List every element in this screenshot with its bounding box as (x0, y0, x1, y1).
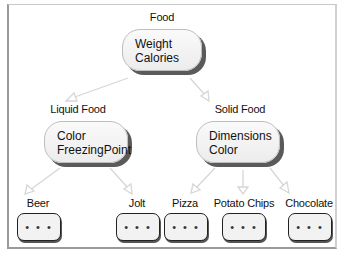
attribute-color: Color (209, 143, 279, 157)
class-title-liquid-food: Liquid Food (50, 103, 105, 115)
class-node-solid-food[interactable]: Dimensions Color (196, 121, 280, 163)
class-node-pizza[interactable]: • • • (164, 213, 208, 241)
class-node-potato-chips[interactable]: • • • (222, 213, 266, 241)
attribute-calories: Calories (135, 51, 201, 65)
class-node-chocolate[interactable]: • • • (288, 213, 332, 241)
class-node-liquid-food[interactable]: Color FreezingPoint (44, 121, 128, 163)
class-title-potato-chips: Potato Chips (214, 197, 275, 209)
class-title-solid-food: Solid Food (215, 103, 266, 115)
class-title-jolt: Jolt (129, 197, 145, 209)
class-title-pizza: Pizza (172, 197, 198, 209)
attribute-weight: Weight (135, 37, 201, 51)
attribute-color: Color (57, 129, 127, 143)
class-node-beer[interactable]: • • • (17, 213, 61, 241)
attribute-freezing-point: FreezingPoint (57, 143, 127, 157)
class-title-food: Food (150, 11, 174, 23)
class-node-food[interactable]: Weight Calories (122, 29, 202, 71)
class-title-beer: Beer (27, 197, 49, 209)
class-title-chocolate: Chocolate (285, 197, 333, 209)
attribute-dimensions: Dimensions (209, 129, 279, 143)
class-node-jolt[interactable]: • • • (116, 213, 160, 241)
